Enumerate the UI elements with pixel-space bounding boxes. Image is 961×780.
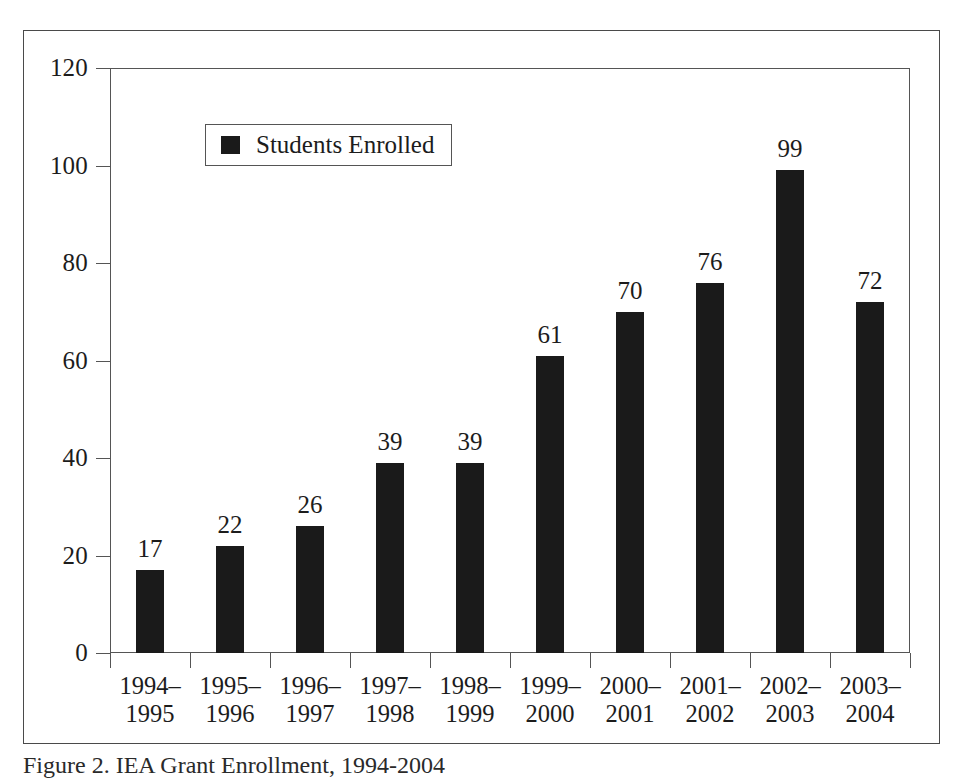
- bar-value-label: 61: [510, 322, 590, 347]
- bar: [856, 302, 884, 653]
- bar: [536, 356, 564, 653]
- x-axis-tick-label-line: 2001–: [670, 672, 750, 700]
- bar: [456, 463, 484, 653]
- x-axis-tick-label-line: 2003–: [830, 672, 910, 700]
- x-axis-tick-label-line: 1998: [350, 700, 430, 728]
- x-axis-tick-label-line: 2002–: [750, 672, 830, 700]
- legend-label: Students Enrolled: [256, 132, 434, 157]
- x-axis-tick-label: 2001–2002: [670, 672, 750, 729]
- x-axis-tick-label: 1995–1996: [190, 672, 270, 729]
- x-axis-tick-label-line: 2001: [590, 700, 670, 728]
- x-axis-tick-label-line: 1999–: [510, 672, 590, 700]
- bar-value-label: 39: [430, 429, 510, 454]
- x-axis-tick-label-line: 1999: [430, 700, 510, 728]
- x-axis-tick-mark: [350, 653, 351, 668]
- x-axis-tick-label-line: 1994–: [110, 672, 190, 700]
- x-axis-tick-label-line: 2000–: [590, 672, 670, 700]
- legend-swatch-icon: [221, 136, 240, 154]
- bar-value-label: 99: [750, 136, 830, 161]
- bar: [376, 463, 404, 653]
- x-axis-tick-label: 2000–2001: [590, 672, 670, 729]
- x-axis-tick-label-line: 2004: [830, 700, 910, 728]
- x-axis-tick-mark: [110, 653, 111, 668]
- x-axis-tick-label-line: 1997–: [350, 672, 430, 700]
- x-axis-tick-label: 1996–1997: [270, 672, 350, 729]
- bar-value-label: 17: [110, 536, 190, 561]
- bar-value-label: 72: [830, 268, 910, 293]
- x-axis-tick-mark: [590, 653, 591, 668]
- x-axis-tick-mark: [510, 653, 511, 668]
- x-axis-tick-mark: [190, 653, 191, 668]
- bar: [136, 570, 164, 653]
- x-axis-tick-mark: [750, 653, 751, 668]
- x-axis-tick-label: 2002–2003: [750, 672, 830, 729]
- x-axis-tick-label-line: 2000: [510, 700, 590, 728]
- bar-value-label: 76: [670, 249, 750, 274]
- figure-caption: Figure 2. IEA Grant Enrollment, 1994-200…: [23, 751, 445, 780]
- bar: [776, 170, 804, 653]
- x-axis-tick-label-line: 1995–: [190, 672, 270, 700]
- x-axis-tick-mark: [670, 653, 671, 668]
- x-axis-tick-mark: [830, 653, 831, 668]
- bar: [696, 283, 724, 654]
- bar-value-label: 70: [590, 278, 670, 303]
- x-axis-tick-mark: [270, 653, 271, 668]
- x-axis-tick-label-line: 2003: [750, 700, 830, 728]
- x-axis-tick-mark: [910, 653, 911, 668]
- bar: [616, 312, 644, 653]
- x-axis-tick-label-line: 1998–: [430, 672, 510, 700]
- x-axis-tick-label-line: 1996–: [270, 672, 350, 700]
- x-axis-tick-label-line: 1997: [270, 700, 350, 728]
- bar: [216, 546, 244, 653]
- x-axis-tick-label-line: 1996: [190, 700, 270, 728]
- x-axis-tick-label: 2003–2004: [830, 672, 910, 729]
- x-axis-tick-mark: [430, 653, 431, 668]
- bar: [296, 526, 324, 653]
- x-axis-tick-label: 1994–1995: [110, 672, 190, 729]
- chart-legend: Students Enrolled: [205, 124, 452, 166]
- bar-value-label: 26: [270, 492, 350, 517]
- bar-value-label: 39: [350, 429, 430, 454]
- x-axis-tick-label: 1999–2000: [510, 672, 590, 729]
- x-axis-tick-label: 1998–1999: [430, 672, 510, 729]
- x-axis-tick-label-line: 2002: [670, 700, 750, 728]
- x-axis-tick-label: 1997–1998: [350, 672, 430, 729]
- x-axis-tick-label-line: 1995: [110, 700, 190, 728]
- bar-value-label: 22: [190, 512, 270, 537]
